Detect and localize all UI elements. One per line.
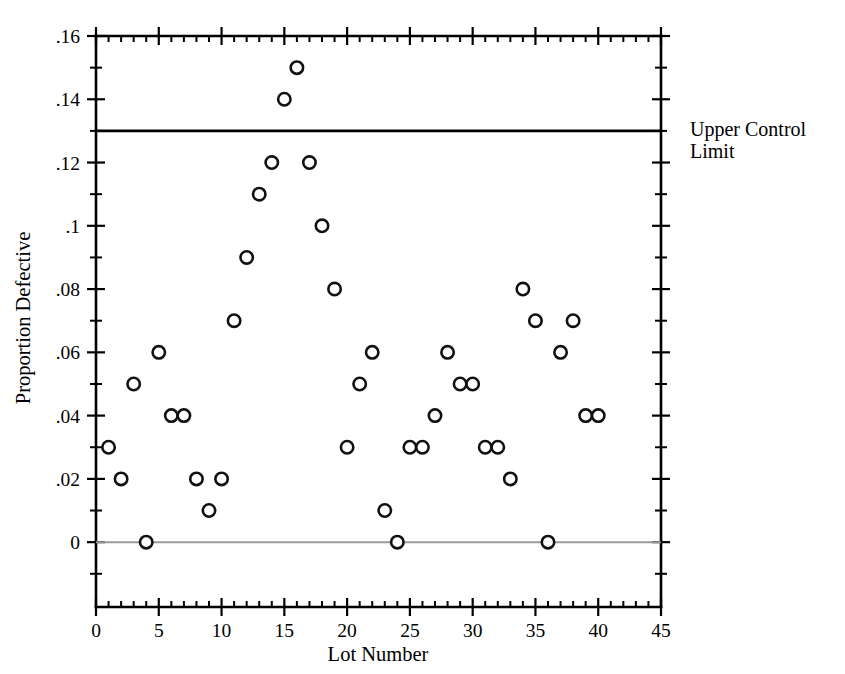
data-point <box>416 441 428 453</box>
y-tick-label: .08 <box>56 279 80 300</box>
data-point <box>466 378 478 390</box>
data-point <box>454 378 466 390</box>
data-point <box>479 441 491 453</box>
data-point <box>391 536 403 548</box>
y-tick-label: .1 <box>65 216 80 237</box>
data-point <box>240 251 252 263</box>
y-tick-label: .16 <box>56 26 81 47</box>
data-point <box>429 409 441 421</box>
data-point <box>102 441 114 453</box>
x-tick-label: 45 <box>651 620 671 641</box>
data-point <box>567 315 579 327</box>
y-tick-label: .14 <box>56 89 81 110</box>
data-point <box>554 346 566 358</box>
y-tick-label: .12 <box>56 153 80 174</box>
data-points <box>102 61 604 548</box>
data-point <box>341 441 353 453</box>
reference-lines <box>96 131 661 542</box>
y-axis-title: Proportion Defective <box>12 232 35 405</box>
data-point <box>178 409 190 421</box>
x-tick-label: 5 <box>154 620 164 641</box>
y-tick-label: 0 <box>70 532 80 553</box>
data-point <box>127 378 139 390</box>
x-tick-label: 40 <box>588 620 608 641</box>
data-point <box>517 283 529 295</box>
data-point <box>291 61 303 73</box>
y-tick-label: .06 <box>56 342 81 363</box>
y-tick-label: .02 <box>56 469 80 490</box>
data-point <box>153 346 165 358</box>
x-tick-label: 35 <box>526 620 546 641</box>
x-tick-label: 10 <box>212 620 232 641</box>
y-tick-label: .04 <box>56 406 81 427</box>
data-point <box>504 473 516 485</box>
data-point <box>303 156 315 168</box>
data-point <box>278 93 290 105</box>
data-point <box>228 315 240 327</box>
data-point <box>366 346 378 358</box>
data-point <box>404 441 416 453</box>
data-point <box>492 441 504 453</box>
x-tick-label: 0 <box>91 620 101 641</box>
ucl-annotation-line2: Limit <box>690 140 735 162</box>
data-point <box>353 378 365 390</box>
data-point <box>328 283 340 295</box>
data-point <box>579 409 591 421</box>
data-point <box>379 504 391 516</box>
data-point <box>115 473 127 485</box>
data-point <box>165 409 177 421</box>
chart-canvas: 0.02.04.06.08.1.12.14.160510152025303540… <box>0 0 845 674</box>
data-point <box>542 536 554 548</box>
data-point <box>253 188 265 200</box>
x-axis-title: Lot Number <box>328 643 429 665</box>
x-tick-label: 30 <box>463 620 483 641</box>
tick-marks <box>87 27 670 616</box>
data-point <box>529 315 541 327</box>
data-point <box>190 473 202 485</box>
data-point <box>140 536 152 548</box>
ucl-annotation-line1: Upper Control <box>690 118 807 141</box>
data-point <box>316 220 328 232</box>
data-point <box>203 504 215 516</box>
x-tick-label: 15 <box>275 620 295 641</box>
x-tick-label: 20 <box>337 620 357 641</box>
control-chart-figure: 0.02.04.06.08.1.12.14.160510152025303540… <box>0 0 845 674</box>
data-point <box>592 409 604 421</box>
x-tick-label: 25 <box>400 620 420 641</box>
data-point <box>266 156 278 168</box>
data-point <box>215 473 227 485</box>
data-point <box>441 346 453 358</box>
